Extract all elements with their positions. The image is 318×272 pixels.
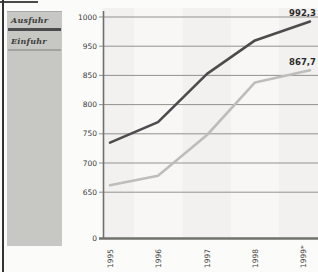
plot-band [103, 8, 134, 238]
x-tick-label: 1995 [106, 249, 115, 268]
plot-band [231, 8, 279, 238]
y-tick-label: 1000 [67, 13, 97, 22]
plot-band [279, 8, 318, 238]
plot-band [183, 8, 232, 238]
x-tick-label: 1999* [299, 245, 308, 268]
series-end-label-ausfuhr: 992,3 [276, 8, 316, 18]
y-tick-label: 750 [67, 129, 97, 138]
y-tick-label: 700 [67, 159, 97, 168]
y-tick-label: 850 [67, 71, 97, 80]
chart-canvas [0, 0, 318, 272]
y-tick-label: 800 [67, 100, 97, 109]
y-tick-label: 950 [67, 42, 97, 51]
y-tick-label: 0 [67, 234, 97, 243]
x-tick-label: 1997 [203, 249, 212, 268]
series-end-label-einfuhr: 867,7 [276, 57, 316, 67]
x-tick-label: 1998 [251, 249, 260, 268]
x-tick-label: 1996 [154, 249, 163, 268]
chart-page: Ausfuhr Einfuhr 100095085080075070065001… [0, 0, 318, 272]
y-tick-label: 650 [67, 188, 97, 197]
